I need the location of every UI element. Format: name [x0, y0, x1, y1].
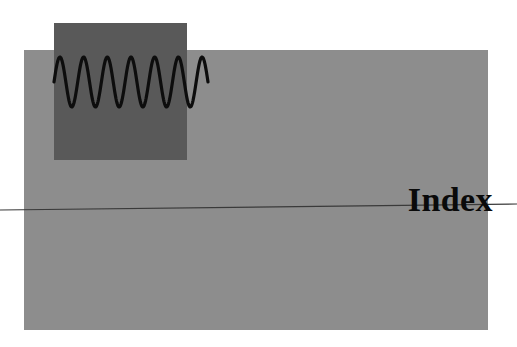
dark-gray-panel: [54, 23, 187, 160]
page-title: Index: [408, 183, 493, 217]
page-canvas: Index: [0, 0, 517, 347]
